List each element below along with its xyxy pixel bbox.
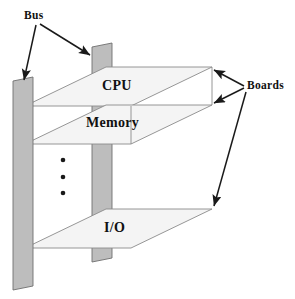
bus-annotation-label: Bus xyxy=(24,10,43,22)
boards-annotation-label: Boards xyxy=(247,80,284,92)
front-bus-bar xyxy=(13,77,33,290)
board-label-io: I/O xyxy=(104,221,125,235)
diagram-canvas xyxy=(0,0,295,299)
bus-leader-arrows xyxy=(24,24,90,80)
board-label-memory: Memory xyxy=(86,116,139,130)
bus-boards-diagram: Bus Boards CPU Memory I/O xyxy=(0,0,295,299)
vertical-ellipsis-icon xyxy=(61,158,66,196)
boards-leader-arrows xyxy=(214,70,246,206)
board-label-cpu: CPU xyxy=(102,79,132,93)
